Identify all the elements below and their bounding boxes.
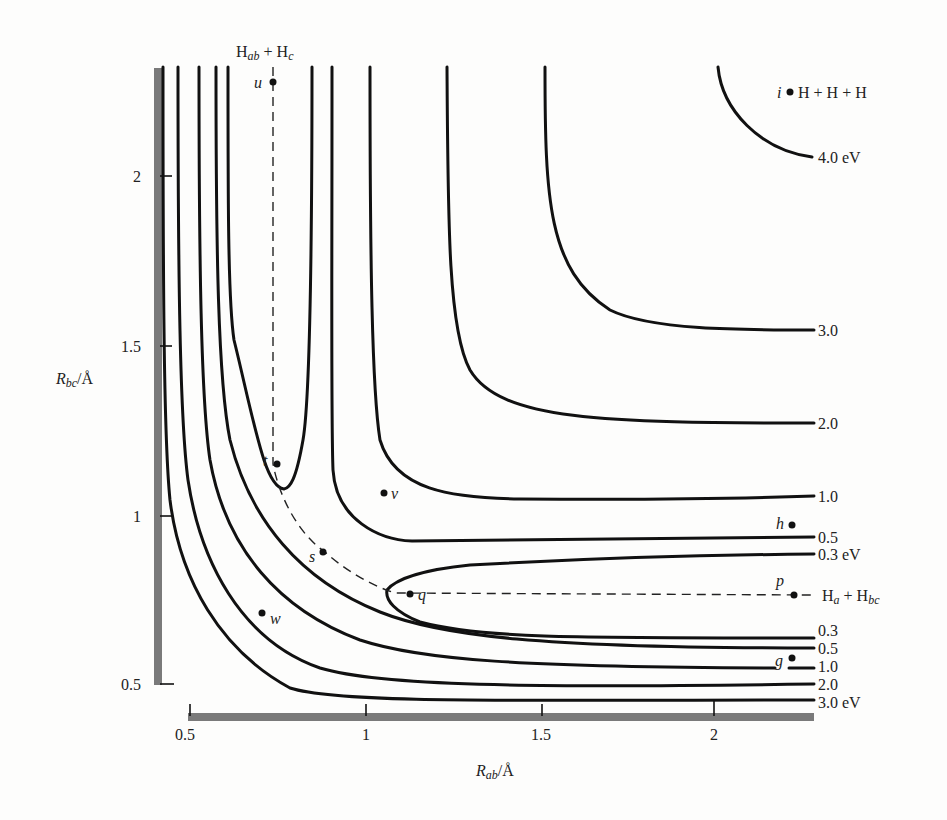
x-tick-label-2: 2 [710, 726, 718, 743]
contour-0.5-upper [332, 67, 814, 541]
point-g [789, 655, 796, 662]
x-axis-title: Rab/Å [475, 762, 514, 782]
point-label-p: p [775, 572, 784, 590]
contour-label-1.0-lower: 1.0 [818, 658, 838, 675]
contour-label-0.5-lower: 0.5 [818, 640, 838, 657]
point-s [320, 549, 327, 556]
y-axis-title: Rbc/Å [55, 370, 94, 390]
contour-3.0-lower [163, 67, 814, 700]
point-label-u: u [254, 74, 262, 91]
contour-3.0-upper [545, 67, 814, 330]
point-q [407, 591, 414, 598]
point-p [791, 592, 798, 599]
contour-label-4.0: 4.0 eV [818, 149, 861, 166]
contour-label-0.5: 0.5 [818, 529, 838, 546]
x-tick-label-1: 1 [362, 726, 370, 743]
contour-0.3-reactant-valley [228, 67, 312, 489]
point-h [789, 522, 796, 529]
x-axis-bar [188, 713, 814, 721]
point-label-h: h [776, 515, 784, 532]
contour-1.0-upper [370, 67, 814, 499]
contour-1.0-lower [199, 67, 775, 668]
reactants-label: Hab + Hc [236, 43, 294, 63]
contour-0.3-product-valley [387, 554, 814, 638]
products-label: Ha + Hbc [822, 587, 880, 607]
point-v [381, 490, 388, 497]
point-label-g: g [775, 652, 783, 670]
contour-label-3.0: 3.0 [818, 322, 838, 339]
y-tick-label-1: 1 [133, 508, 141, 525]
potential-energy-surface-diagram: u t s q p v w h g i Hab + Hc H + H + H H… [0, 0, 947, 820]
atomization-label: H + H + H [798, 84, 867, 101]
y-axis-bar [154, 68, 162, 685]
point-label-q: q [418, 586, 426, 604]
x-tick-label-1.5: 1.5 [531, 726, 551, 743]
point-t [274, 461, 281, 468]
point-label-w: w [270, 610, 281, 627]
y-tick-label-0.5: 0.5 [121, 676, 141, 693]
contour-0.5-lower [216, 67, 814, 648]
y-tick-label-1.5: 1.5 [121, 338, 141, 355]
point-w [259, 610, 266, 617]
contour-2.0-upper [447, 67, 814, 423]
point-label-v: v [391, 485, 399, 502]
point-label-s: s [309, 548, 315, 565]
contour-4.0 [718, 67, 812, 157]
contour-label-2.0-lower: 2.0 [818, 676, 838, 693]
point-i [787, 89, 794, 96]
contour-label-1.0: 1.0 [818, 488, 838, 505]
x-tick-label-0.5: 0.5 [175, 726, 195, 743]
point-label-i: i [777, 84, 781, 101]
contour-label-2.0: 2.0 [818, 415, 838, 432]
contour-label-0.3-lower: 0.3 [818, 622, 838, 639]
contour-label-3.0-lower: 3.0 eV [818, 694, 861, 711]
point-u [270, 79, 277, 86]
point-label-t: t [263, 452, 268, 469]
y-tick-label-2: 2 [133, 168, 141, 185]
contour-label-0.3: 0.3 eV [818, 546, 861, 563]
